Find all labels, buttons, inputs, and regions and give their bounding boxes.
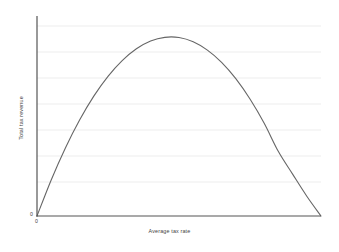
y-axis-title: Total tax revenue: [18, 96, 24, 140]
laffer-curve-line: [37, 37, 321, 216]
laffer-curve-figure: 0 0 Total tax revenue Average tax rate: [0, 0, 339, 252]
y-axis-origin-tick-label: 0: [30, 211, 33, 217]
x-axis-title: Average tax rate: [0, 228, 339, 234]
gridlines: [37, 26, 321, 182]
chart-plot-area: [0, 0, 339, 252]
x-axis-origin-tick-label: 0: [35, 218, 38, 224]
